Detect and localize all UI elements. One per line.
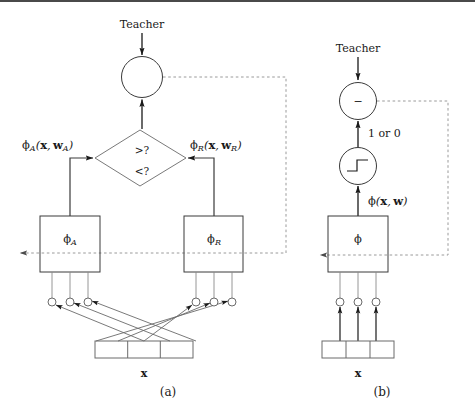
panel-b-caption: (b)	[373, 386, 390, 398]
phi-box-label-b: ϕ	[354, 234, 362, 246]
input-link	[74, 303, 170, 341]
feedback-path-b	[320, 101, 448, 255]
step-function-icon	[347, 160, 368, 171]
phi-a-box-label: ϕA	[63, 234, 77, 247]
phi-r-signal-label: ϕR(x, wR)	[190, 140, 242, 153]
comparator-diamond	[95, 130, 186, 186]
unit-node	[354, 298, 362, 306]
input-vector-label-b: x	[355, 368, 362, 379]
panel-a-caption: (a)	[160, 386, 177, 398]
input-vector-label-a: x	[141, 368, 148, 379]
error-node-symbol: −	[353, 96, 362, 107]
input-link	[92, 301, 196, 341]
feedback-path-a	[20, 77, 286, 253]
unit-node	[336, 298, 344, 306]
phi-r-box-label: ϕR	[207, 234, 221, 247]
teacher-label-a: Teacher	[120, 19, 165, 30]
figure-container: Teacher >? <? ϕA(x, wA) ϕR(x, wR) ϕA ϕR …	[0, 0, 475, 408]
unit-node	[210, 298, 218, 306]
phi-a-signal-label: ϕA(x, wA)	[22, 140, 73, 153]
comparator-less-label: <?	[135, 166, 149, 177]
input-link	[96, 301, 228, 341]
input-vector-box-b	[322, 341, 394, 358]
comparator-greater-label: >?	[135, 145, 149, 156]
phi-r-to-comparator-path	[188, 158, 214, 216]
input-link	[144, 305, 192, 341]
unit-node	[48, 298, 56, 306]
unit-node	[192, 298, 200, 306]
teacher-label-b: Teacher	[336, 43, 381, 54]
input-vector-box-a	[95, 341, 193, 358]
unit-node	[84, 298, 92, 306]
summing-node-a	[122, 57, 163, 98]
unit-node	[372, 298, 380, 306]
unit-node	[66, 298, 74, 306]
output-label-b: 1 or 0	[368, 128, 401, 139]
activation-label-b: ϕ(x, w)	[368, 196, 408, 208]
input-link	[118, 303, 210, 341]
unit-node	[228, 298, 236, 306]
panel-a-graphics	[20, 33, 286, 358]
threshold-node-b	[340, 148, 377, 185]
phi-a-to-comparator-path	[70, 158, 93, 216]
